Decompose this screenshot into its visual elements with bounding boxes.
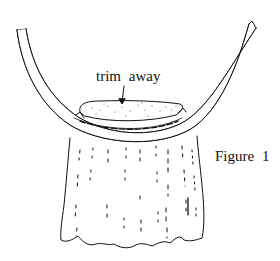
figure-caption: Figure 1 xyxy=(215,148,269,165)
gathered-fabric xyxy=(61,136,204,248)
diagram-drawing xyxy=(0,0,280,261)
trim-away-label: trim away xyxy=(96,68,160,85)
